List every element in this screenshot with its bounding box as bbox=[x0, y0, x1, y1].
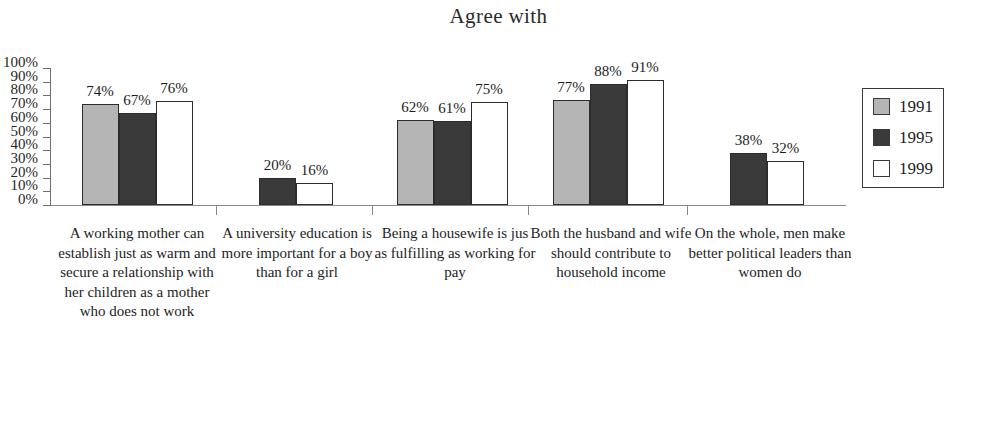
category-label: A university education is more important… bbox=[218, 224, 376, 283]
bar-group: 20%16% bbox=[259, 68, 333, 205]
bar-1999[interactable]: 76% bbox=[156, 101, 193, 205]
bar-1995[interactable]: 88% bbox=[590, 84, 627, 205]
bar-1991[interactable]: 77% bbox=[553, 100, 590, 205]
bar-value-label: 16% bbox=[301, 163, 329, 178]
chart-title: Agree with bbox=[0, 4, 997, 29]
bar-group-bars: 20%16% bbox=[259, 68, 333, 205]
bar-1991[interactable]: 62% bbox=[397, 120, 434, 205]
category-separator-tick bbox=[528, 205, 529, 215]
bar-value-label: 38% bbox=[735, 133, 763, 148]
bar-value-label: 67% bbox=[123, 93, 151, 108]
bar-1991[interactable]: 74% bbox=[82, 104, 119, 205]
category-separator-tick bbox=[372, 205, 373, 215]
legend-swatch-1991 bbox=[873, 98, 890, 115]
legend-swatch-1999 bbox=[873, 160, 890, 177]
y-axis-tick-mark bbox=[43, 150, 50, 151]
y-axis-tick-label: 60% bbox=[11, 111, 39, 124]
y-axis-tick-mark bbox=[43, 137, 50, 138]
legend-label-1995: 1995 bbox=[899, 129, 933, 146]
category-label: On the whole, men make better political … bbox=[686, 224, 854, 283]
legend-item-1995[interactable]: 1995 bbox=[873, 129, 933, 146]
bar-group-bars: 74%67%76% bbox=[82, 68, 193, 205]
category-separator-tick bbox=[687, 205, 688, 215]
y-axis-tick-mark bbox=[43, 109, 50, 110]
bar-group: 62%61%75% bbox=[397, 68, 508, 205]
bar-1995[interactable]: 20% bbox=[259, 178, 296, 205]
legend-label-1999: 1999 bbox=[899, 160, 933, 177]
bar-value-label: 75% bbox=[475, 82, 503, 97]
category-separator-tick bbox=[216, 205, 217, 215]
legend-label-1991: 1991 bbox=[899, 98, 933, 115]
y-axis-tick-mark bbox=[43, 82, 50, 83]
legend-item-1991[interactable]: 1991 bbox=[873, 98, 933, 115]
bar-group: 74%67%76% bbox=[82, 68, 193, 205]
x-axis-line bbox=[43, 205, 846, 206]
y-axis-labels: 100%90%80%70%60%50%40%30%20%10%0% bbox=[0, 62, 38, 212]
legend-item-1999[interactable]: 1999 bbox=[873, 160, 933, 177]
bar-chart: Agree with 100%90%80%70%60%50%40%30%20%1… bbox=[0, 0, 997, 431]
bar-value-label: 32% bbox=[772, 141, 800, 156]
y-axis-tick-mark bbox=[43, 205, 50, 206]
bar-value-label: 88% bbox=[594, 64, 622, 79]
bar-group-bars: 62%61%75% bbox=[397, 68, 508, 205]
bar-value-label: 77% bbox=[557, 80, 585, 95]
y-axis-tick-mark bbox=[43, 191, 50, 192]
bar-value-label: 76% bbox=[160, 81, 188, 96]
category-label: A working mother can establish just as w… bbox=[52, 224, 222, 322]
bar-1995[interactable]: 61% bbox=[434, 121, 471, 205]
y-axis-tick-mark bbox=[43, 178, 50, 179]
bar-1999[interactable]: 75% bbox=[471, 102, 508, 205]
category-labels: A working mother can establish just as w… bbox=[0, 224, 997, 424]
bar-value-label: 62% bbox=[401, 100, 429, 115]
bar-group: 77%88%91% bbox=[553, 68, 664, 205]
y-axis-tick-mark bbox=[43, 164, 50, 165]
bar-value-label: 74% bbox=[86, 84, 114, 99]
legend-swatch-1995 bbox=[873, 129, 890, 146]
legend: 199119951999 bbox=[862, 88, 944, 188]
category-label: Both the husband and wife should contrib… bbox=[528, 224, 694, 283]
bar-1999[interactable]: 91% bbox=[627, 80, 664, 205]
plot-area: 74%67%76%20%16%62%61%75%77%88%91%38%32% bbox=[50, 68, 846, 205]
category-label: Being a housewife is jus as fulfilling a… bbox=[374, 224, 536, 283]
bar-group: 38%32% bbox=[730, 68, 804, 205]
bar-value-label: 20% bbox=[264, 158, 292, 173]
y-axis-tick-label: 0% bbox=[18, 193, 38, 206]
y-axis-tick-mark bbox=[43, 123, 50, 124]
bar-1995[interactable]: 38% bbox=[730, 153, 767, 205]
bar-group-bars: 77%88%91% bbox=[553, 68, 664, 205]
bar-1995[interactable]: 67% bbox=[119, 113, 156, 205]
y-axis-tick-mark bbox=[43, 68, 50, 69]
bar-1999[interactable]: 16% bbox=[296, 183, 333, 205]
y-axis-tick-label: 30% bbox=[11, 152, 39, 165]
bar-value-label: 91% bbox=[631, 60, 659, 75]
bar-1999[interactable]: 32% bbox=[767, 161, 804, 205]
y-axis-tick-mark bbox=[43, 95, 50, 96]
bar-group-bars: 38%32% bbox=[730, 68, 804, 205]
bar-value-label: 61% bbox=[438, 101, 466, 116]
